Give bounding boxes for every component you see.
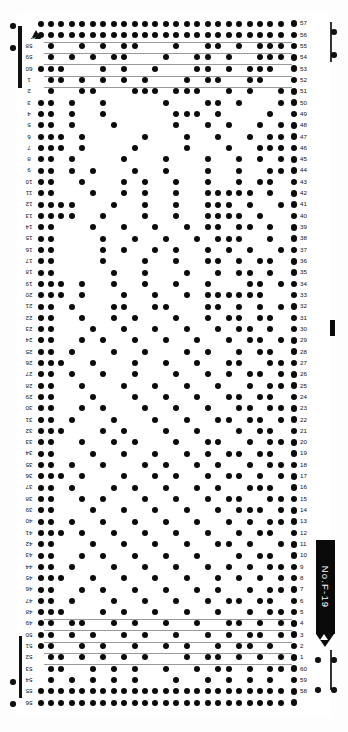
punch-hole [152,247,158,253]
punch-hole [142,134,148,140]
punch-hole [247,541,253,547]
row-number-left: 40 [22,518,36,524]
punch-hole [69,519,75,525]
punch-hole [121,451,127,457]
punch-hole [278,462,284,468]
punch-hole-margin-right [291,428,298,435]
punch-hole [48,462,54,468]
punch-hole [257,258,263,264]
punch-hole [267,111,273,117]
punch-hole [267,383,273,389]
punch-hole [38,213,44,219]
punch-hole [69,417,75,423]
punch-hole [142,700,148,706]
row-number-left: 4 [22,111,36,117]
punch-hole [90,54,96,60]
punch-hole [142,258,148,264]
punch-hole [215,258,221,264]
punch-hole [142,32,148,38]
punch-hole [226,677,232,683]
punch-hole [58,32,64,38]
punch-hole [121,654,127,660]
punch-hole-margin-right [291,235,298,242]
punch-hole [121,507,127,513]
row-number-left: 39 [22,507,36,513]
punch-hole-margin-right [291,88,298,95]
punch-hole [121,156,127,162]
punch-hole [184,688,190,694]
row-number-right: 53 [300,66,314,72]
punch-hole [90,507,96,513]
punch-hole-margin-right [291,439,298,446]
punch-hole [58,360,64,366]
punch-hole [38,270,44,276]
punch-hole [69,54,75,60]
punch-hole [215,462,221,468]
punch-hole [205,21,211,27]
punch-hole [142,530,148,536]
punch-hole [194,519,200,525]
punch-hole [257,654,263,660]
punch-hole [267,236,273,242]
punch-hole [267,451,273,457]
pattern-number-tag: No.F-19 [316,540,335,634]
punch-hole [247,405,253,411]
punch-hole-margin-right [291,315,298,322]
punch-hole [247,247,253,253]
punch-hole [69,32,75,38]
punch-hole [100,111,106,117]
punch-hole-margin-right [291,281,298,288]
punch-hole [236,156,242,162]
punch-hole [173,213,179,219]
punch-hole [38,417,44,423]
punch-hole [38,564,44,570]
punch-hole [226,519,232,525]
punch-hole [184,145,190,151]
punch-hole [278,496,284,502]
punch-hole [79,530,85,536]
row-number-right: 10 [300,552,314,558]
punch-hole [38,247,44,253]
punch-hole [90,224,96,230]
punch-hole [257,620,263,626]
punch-hole [194,360,200,366]
punch-hole [152,700,158,706]
row-number-left: 12 [22,201,36,207]
punch-hole [236,326,242,332]
punch-hole [173,496,179,502]
punch-hole [152,451,158,457]
punch-hole [132,337,138,343]
punch-hole [132,394,138,400]
punch-hole [215,32,221,38]
punch-hole [152,575,158,581]
punch-hole [48,564,54,570]
registration-hole [10,45,15,50]
punch-hole [226,213,232,219]
punch-hole [100,236,106,242]
punch-hole [267,428,273,434]
punch-hole [132,236,138,242]
punch-hole [236,700,242,706]
punch-hole [121,77,127,83]
punch-hole [236,360,242,366]
punch-hole [100,77,106,83]
row-number-right: 55 [300,43,314,49]
row-number-right: 2 [300,643,314,649]
punch-hole [142,179,148,185]
punch-hole [38,32,44,38]
punch-hole [163,666,169,672]
punch-hole [215,43,221,49]
punch-hole [48,371,54,377]
punch-hole [48,281,54,287]
punch-hole [184,326,190,332]
punch-hole [226,451,232,457]
punch-hole [163,21,169,27]
punch-hole [267,326,273,332]
punch-hole [163,700,169,706]
row-number-left: 14 [22,224,36,230]
punch-hole [121,428,127,434]
row-number-left: 13 [22,213,36,219]
row-number-right: 20 [300,439,314,445]
row-number-right: 26 [300,371,314,377]
punch-hole [121,21,127,27]
